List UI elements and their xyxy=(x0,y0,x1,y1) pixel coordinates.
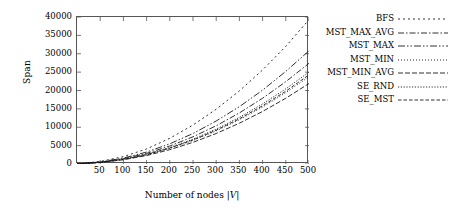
y-tick-label: 30000 xyxy=(30,49,72,58)
y-tick-label: 25000 xyxy=(30,67,72,76)
legend-item: MST_MIN_AVG xyxy=(300,66,450,79)
legend: BFSMST_MAX_AVGMST_MAXMST_MINMST_MIN_AVGS… xyxy=(300,12,450,108)
y-tick-label: 15000 xyxy=(30,104,72,113)
series-line xyxy=(77,84,309,164)
legend-line-sample xyxy=(398,59,448,60)
legend-label: MST_MIN_AVG xyxy=(298,66,394,79)
series-line xyxy=(77,63,309,164)
y-axis-ticks: 0500010000150002000025000300003500040000 xyxy=(28,16,72,163)
x-tick-label: 500 xyxy=(293,166,323,175)
legend-label: MST_MAX xyxy=(298,39,394,52)
legend-label: BFS xyxy=(298,12,394,25)
x-axis-label: Number of nodes |V| xyxy=(76,190,308,200)
legend-line-sample xyxy=(398,99,448,100)
legend-item: SE_MST xyxy=(300,93,450,106)
plot-lines xyxy=(77,17,309,164)
x-axis-ticks: 50100150200250300350400450500 xyxy=(76,166,308,180)
legend-item: MST_MAX xyxy=(300,39,450,52)
x-axis-label-math: |V| xyxy=(227,190,240,200)
x-axis-label-text: Number of nodes xyxy=(145,190,227,200)
series-line xyxy=(77,75,309,164)
legend-label: SE_RND xyxy=(298,80,394,93)
legend-label: MST_MAX_AVG xyxy=(298,26,394,39)
y-tick-label: 0 xyxy=(30,159,72,168)
series-line xyxy=(77,51,309,164)
legend-item: BFS xyxy=(300,12,450,25)
legend-line-sample xyxy=(398,72,448,73)
y-tick-label: 10000 xyxy=(30,122,72,131)
legend-line-sample xyxy=(398,32,448,33)
y-tick-label: 5000 xyxy=(30,141,72,150)
y-tick-label: 40000 xyxy=(30,12,72,21)
legend-label: SE_MST xyxy=(298,93,394,106)
series-line xyxy=(77,77,309,164)
legend-label: MST_MIN xyxy=(298,53,394,66)
legend-line-sample xyxy=(398,18,448,19)
chart-figure: Span 05000100001500020000250003000035000… xyxy=(0,0,453,213)
y-tick-label: 20000 xyxy=(30,86,72,95)
series-line xyxy=(77,72,309,164)
plot-area xyxy=(76,16,308,163)
y-tick-label: 35000 xyxy=(30,30,72,39)
legend-item: MST_MIN xyxy=(300,53,450,66)
legend-item: SE_RND xyxy=(300,80,450,93)
series-line xyxy=(77,20,309,164)
legend-line-sample xyxy=(398,45,448,46)
legend-line-sample xyxy=(398,86,448,87)
legend-item: MST_MAX_AVG xyxy=(300,26,450,39)
